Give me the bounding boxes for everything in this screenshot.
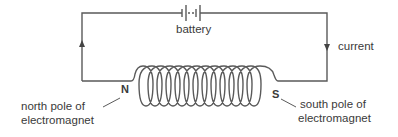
- wire-bottom-left: [82, 66, 143, 81]
- north-desc-line1: north pole of: [21, 100, 85, 113]
- south-desc-line1: south pole of: [300, 98, 366, 111]
- south-pole-label: S: [272, 88, 279, 100]
- battery-icon: [182, 5, 200, 21]
- north-leader-line: [103, 98, 120, 107]
- coil-icon: [139, 66, 278, 106]
- south-leader-line: [281, 99, 296, 107]
- current-label: current: [338, 40, 374, 53]
- battery-label: battery: [176, 23, 211, 36]
- north-pole-label: N: [121, 83, 129, 95]
- arrow-up-icon: [79, 40, 85, 47]
- north-desc-line2: electromagnet: [21, 114, 94, 127]
- arrow-down-icon: [324, 44, 330, 51]
- wire-top-right: [200, 13, 327, 81]
- south-desc-line2: electromagnet: [298, 112, 371, 125]
- wire-top-left: [82, 13, 182, 81]
